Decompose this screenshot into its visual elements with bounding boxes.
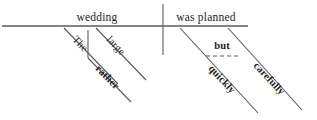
modifier-label-the: The — [71, 34, 91, 54]
modifier-label-large: large — [105, 34, 128, 57]
modifier-label-rather: rather — [94, 63, 122, 92]
conjunction-label-but: but — [214, 40, 230, 51]
subject-label: wedding — [76, 11, 117, 24]
modifier-label-quickly: quickly — [207, 63, 239, 96]
diagram-canvas: wedding was planned The large rather but… — [0, 0, 317, 120]
sentence-diagram: wedding was planned The large rather but… — [0, 0, 317, 120]
predicate-label: was planned — [176, 11, 235, 24]
modifier-label-carefully: carefully — [252, 60, 288, 97]
